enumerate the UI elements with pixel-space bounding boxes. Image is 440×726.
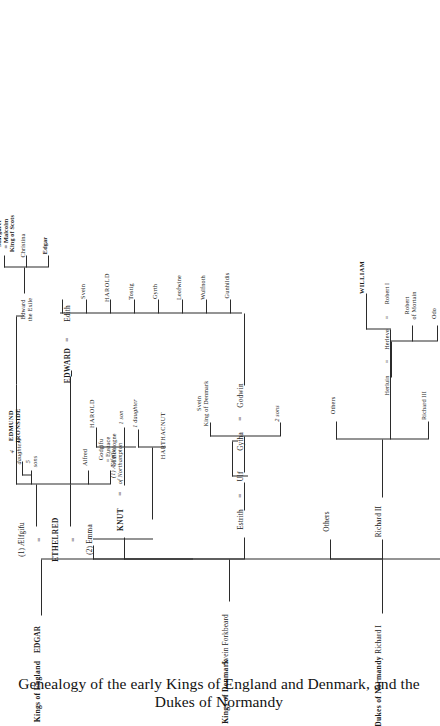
node-odo: Odo <box>431 307 438 318</box>
node-christina: Christina <box>20 233 27 257</box>
line-child-leofwine <box>182 299 183 313</box>
node-godwin-child-tostig: Tostig <box>128 283 135 299</box>
line-to-others-1 <box>330 539 331 559</box>
line-knut-aelf <box>124 447 125 485</box>
line-to-godgifu <box>110 470 111 484</box>
node-godwin-child-gunhildis: Gunhildis <box>224 272 231 298</box>
line-to-2sons <box>280 422 281 436</box>
line-richard-ii-children <box>336 438 428 439</box>
line-to-estrith <box>244 537 245 559</box>
line-to-svein-dk <box>210 422 211 436</box>
line-ulf-children-v <box>210 435 280 436</box>
marriage-eq-5: = <box>237 416 245 420</box>
line-knut-aelf-children <box>96 446 136 447</box>
line-to-margaret <box>4 255 5 267</box>
line-to-edgar-atheling <box>48 255 49 267</box>
line-child-edith <box>62 299 63 313</box>
line-herluin-children-v <box>391 340 437 341</box>
line-godwin-down <box>244 313 245 385</box>
line-richard-i-desc <box>382 559 383 613</box>
line-child-gunhildis <box>230 299 231 313</box>
node-herluin: Herluin <box>384 375 391 395</box>
node-margaret: Margaret = Malcolm King of Scots <box>0 214 16 251</box>
marriage-eq-3: = <box>117 491 125 495</box>
marriage-eq-2: = <box>70 537 78 541</box>
node-godwin-child-gyrth: Gyrth <box>152 283 159 298</box>
line-exile-children <box>24 267 25 293</box>
marriage-eq-7: = <box>384 359 391 363</box>
line-ethelred-line1 <box>36 484 37 526</box>
node-estrith: Estrith <box>237 509 245 530</box>
node-godwin-child-harold: HAROLD <box>104 273 111 302</box>
line-to-alfred <box>88 470 89 484</box>
node-robert-of-mortain: Robert of Mortain <box>404 291 417 319</box>
node-others-2: Others <box>330 396 337 413</box>
line-gytha-drop <box>232 440 238 441</box>
node-godwin-child-svein: Svein <box>80 284 87 299</box>
line-child-gyrth <box>158 299 159 313</box>
line-edgar-desc <box>41 559 42 615</box>
node-richard-iii: Richard III <box>421 391 428 420</box>
node-godwin-child-wulfnoth: Wulfnoth <box>200 275 207 300</box>
line-child-svein <box>86 299 87 313</box>
line-child-tostig <box>134 299 135 313</box>
line-knut-emma <box>152 447 153 519</box>
node-edward-confessor: EDWARD <box>64 347 72 382</box>
line-william-v <box>366 328 391 329</box>
node-svein-forkbeard: Svein Forkbeard <box>222 614 230 665</box>
node-edward-the-exile: Edward the Exile <box>20 297 33 321</box>
line-to-1daughter <box>138 429 139 447</box>
node-herleve: Herleve <box>384 329 391 350</box>
line-svein-children <box>124 558 244 559</box>
node-aelfgifu-1: (1) Ælfgifu <box>18 522 26 557</box>
line-to-harold <box>96 427 97 447</box>
line-to-edward <box>70 376 71 484</box>
node-godwin-child-leofwine: Leofwine <box>176 275 183 300</box>
node-godgifu: Godgifu = Eustace of Boulogne <box>98 433 118 465</box>
node-5-sons: 5 sons <box>25 455 38 467</box>
line-to-knut <box>124 537 125 559</box>
line-edward-edith <box>71 370 72 376</box>
node-richard-i: Richard I <box>375 625 383 654</box>
node-knut: KNUT <box>117 507 125 530</box>
node-edmund-ironside: EDMUND IRONSIDE <box>8 408 21 443</box>
node-harold-knut: HAROLD <box>89 399 96 428</box>
line-ethelred-line2 <box>70 484 71 526</box>
node-alfred: Alfred <box>82 448 89 465</box>
node-1-son: 1 son <box>118 410 125 424</box>
line-emma-in <box>93 545 94 559</box>
node-svein-king-of-denmark: Svein King of Denmark <box>196 380 209 426</box>
node-2-sons: 2 sons <box>274 405 281 422</box>
line-ulf-gytha-h <box>232 441 233 476</box>
line-ulf-children <box>244 436 245 472</box>
node-others-1: Others <box>323 511 331 531</box>
node-edgar: EDGAR <box>34 625 42 652</box>
line-to-others-2 <box>336 421 337 439</box>
line-to-5-sons <box>31 470 32 484</box>
line-edmund-to-exile <box>16 316 17 384</box>
figure-caption: Genealogy of the early Kings of England … <box>0 675 438 711</box>
marriage-eq-6: = <box>64 337 72 341</box>
line-to-richard-ii <box>382 539 383 559</box>
line-godwin-spine <box>60 312 242 313</box>
node-richard-ii: Richard II <box>375 505 383 536</box>
line-to-william <box>366 293 367 329</box>
marriage-eq-1: = <box>36 537 44 541</box>
marriage-eq-8: = <box>384 315 391 319</box>
node-edgar-atheling: Edgar <box>42 236 49 253</box>
line-to-richard-iii <box>428 421 429 439</box>
line-to-robert-mortain <box>412 325 413 341</box>
node-godwin: Godwin <box>237 383 245 407</box>
line-to-odo <box>437 325 438 341</box>
node-robert-i: Robert I <box>384 282 391 304</box>
node-1-daughter: 1 daughter <box>132 399 139 427</box>
line-to-1son <box>124 427 125 447</box>
line-knut-emma-v <box>93 538 153 539</box>
node-william: WILLIAM <box>359 260 366 293</box>
node-harthacnut: HARTHACNUT <box>160 411 167 458</box>
line-richard-ii-desc <box>382 439 383 497</box>
line-ulf-gytha-v <box>232 475 248 476</box>
line-4d-v <box>22 474 31 475</box>
